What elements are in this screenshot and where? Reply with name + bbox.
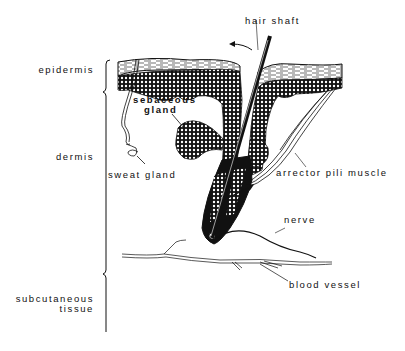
label-hair-shaft: hair shaft	[245, 16, 300, 26]
label-arrector-pili-muscle: arrector pili muscle	[276, 168, 388, 178]
label-sweat-gland: sweat gland	[108, 170, 176, 180]
blood-vessel	[122, 240, 332, 281]
hair-erect-arrow-top	[232, 44, 252, 50]
nerve-line	[214, 231, 316, 258]
label-subcutaneous-line2: tissue	[8, 304, 94, 314]
label-sebaceous-line2: gland	[144, 105, 177, 115]
label-nerve: nerve	[284, 215, 316, 225]
label-blood-vessel: blood vessel	[289, 280, 361, 290]
label-dermis: dermis	[20, 152, 94, 162]
skin-diagram: epidermis dermis subcutaneous tissue hai…	[0, 0, 405, 351]
layer-bracket	[103, 60, 110, 332]
label-epidermis: epidermis	[20, 65, 94, 75]
